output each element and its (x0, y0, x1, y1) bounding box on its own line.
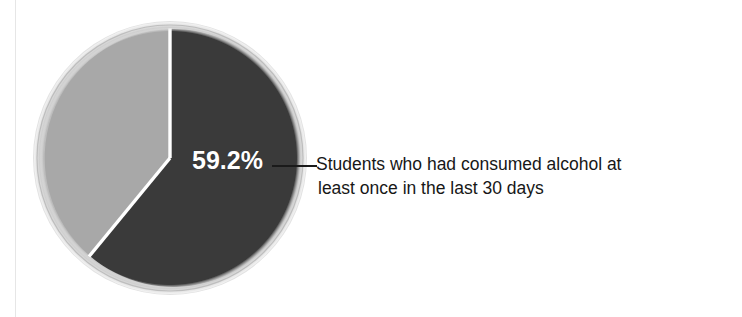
pie-rim-highlight (34, 22, 306, 294)
pie-chart-graphic (30, 16, 314, 304)
page-margin-rule (15, 0, 16, 317)
callout-label-line-2: least once in the last 30 days (316, 176, 728, 200)
pie-chart-figure: 59.2% Students who had consumed alcohol … (0, 0, 742, 317)
slice-percent-label: 59.2% (192, 148, 263, 173)
callout-leader-line (272, 165, 317, 167)
callout-label: Students who had consumed alcohol at lea… (316, 152, 728, 200)
callout-label-line-1: Students who had consumed alcohol at (316, 152, 728, 176)
pie-svg (30, 16, 314, 304)
